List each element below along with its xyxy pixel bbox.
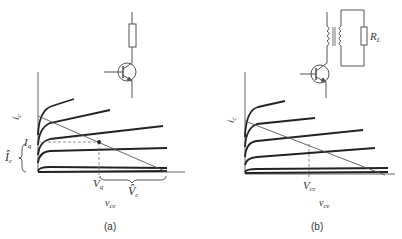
graph-b [245,72,395,178]
q-point [97,140,101,144]
circuit-a [104,12,136,98]
rl-label: RL [370,31,381,44]
vc-peak-label: V̂c [128,185,138,199]
caption-b: (b) [311,222,323,232]
diagram-canvas [0,0,402,239]
x-axis-label-a: vce [105,198,116,210]
vq-label: Vq [93,178,103,191]
load-resistor-icon [361,27,367,45]
transformer-primary-icon [327,26,329,46]
transformer-secondary-icon [339,26,341,46]
iq-label: Iq [24,137,31,150]
ic-peak-label: Îc [5,151,12,165]
graph-a [19,72,185,183]
load-line-a [38,116,167,172]
vc-brace [100,176,166,183]
circuit-b [300,10,367,98]
caption-a: (a) [104,222,116,232]
collector-resistor-icon [129,24,136,47]
x-axis-label-b: vce [319,198,330,210]
vcc-label: Vcc [303,180,316,193]
